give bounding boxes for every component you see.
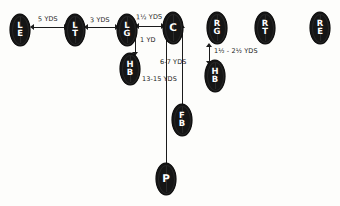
player-label-line-2: E (17, 30, 23, 38)
formation-diagram: L E L T L G C R G R T R E H B H B F B P … (0, 0, 340, 206)
arrow-rg-to-hb (209, 47, 210, 61)
measurement-lt-to-lg: 3 YDS (90, 16, 110, 24)
player-left-guard: L G (117, 14, 137, 46)
measurement-lg-to-hb: 1 YD (140, 36, 156, 44)
player-fullback: F B (172, 104, 192, 136)
arrow-lg-to-c (139, 26, 161, 27)
player-halfback-left: H B (120, 53, 140, 85)
arrow-le-to-lt (34, 27, 64, 28)
player-label-line-2: B (179, 120, 186, 128)
player-label-line-2: E (317, 28, 323, 36)
player-label-line-2: G (214, 28, 221, 36)
player-center: C (163, 12, 183, 44)
player-label-line-2: G (124, 30, 131, 38)
player-right-guard: R G (207, 12, 227, 44)
player-left-tackle: L T (65, 14, 85, 46)
player-label-line-1: C (169, 23, 177, 33)
player-halfback-right: H B (205, 60, 225, 92)
arrow-c-to-fb (182, 28, 183, 106)
measurement-c-to-p: 13-15 YDS (142, 75, 177, 83)
measurement-le-to-lt: 5 YDS (38, 15, 58, 23)
measurement-c-to-fb: 6-7 YDS (160, 58, 186, 66)
arrowhead-up (206, 43, 212, 47)
player-label-line-2: T (72, 30, 78, 38)
player-label-line-2: B (212, 76, 219, 84)
measurement-rg-to-hb: 1½ - 2½ YDS (214, 47, 258, 55)
measurement-lg-to-c: 1½ YDS (136, 13, 162, 22)
player-label-line-2: T (262, 28, 268, 36)
player-label-line-1: P (162, 174, 170, 184)
player-right-end: R E (310, 12, 330, 44)
player-punter: P (156, 163, 176, 195)
arrow-c-to-p (166, 30, 167, 165)
player-label-line-2: B (127, 69, 134, 77)
arrowhead-left (30, 24, 34, 30)
player-left-end: L E (10, 14, 30, 46)
player-right-tackle: R T (255, 12, 275, 44)
arrow-lt-to-lg (88, 27, 115, 28)
